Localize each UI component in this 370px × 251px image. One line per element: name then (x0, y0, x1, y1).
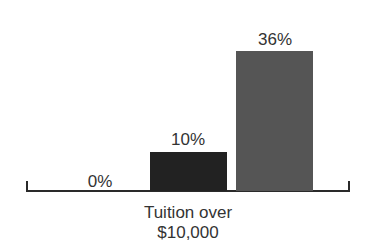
x-axis-left-tick (26, 181, 28, 192)
x-axis-right-tick (348, 181, 350, 192)
bar-value-label-3: 36% (235, 31, 315, 49)
bar-3 (236, 51, 313, 191)
bar-value-label-1: 0% (60, 173, 140, 191)
category-label-line-2: $10,000 (108, 223, 268, 243)
bar-2 (150, 152, 227, 191)
bar-chart: 0% 10% 36% Tuition over $10,000 (0, 0, 370, 251)
bar-value-label-2: 10% (148, 131, 228, 149)
category-label-line-1: Tuition over (108, 203, 268, 223)
category-label: Tuition over $10,000 (108, 203, 268, 243)
